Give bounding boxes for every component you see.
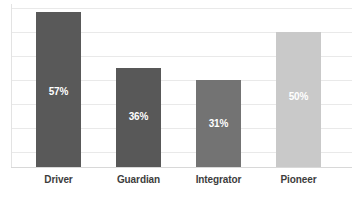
bar-guardian[interactable]: 36% — [116, 68, 161, 167]
category-label-integrator: Integrator — [182, 174, 255, 185]
y-axis-line — [11, 4, 12, 167]
bar-driver[interactable]: 57% — [36, 12, 81, 167]
bar-value-label: 36% — [116, 111, 161, 122]
bar-value-label: 57% — [36, 86, 81, 97]
bar-pioneer[interactable]: 50% — [276, 32, 321, 167]
bar-chart: 57%36%31%50% DriverGuardianIntegratorPio… — [0, 0, 352, 201]
bar-integrator[interactable]: 31% — [196, 80, 241, 167]
x-axis-line — [11, 167, 352, 168]
gridline — [11, 8, 352, 9]
category-label-driver: Driver — [22, 174, 95, 185]
bar-value-label: 31% — [196, 118, 241, 129]
bar-value-label: 50% — [276, 91, 321, 102]
category-label-guardian: Guardian — [102, 174, 175, 185]
category-label-pioneer: Pioneer — [262, 174, 335, 185]
